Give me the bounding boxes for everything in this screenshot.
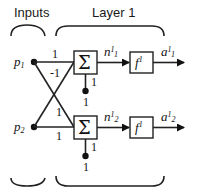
output-label-1: a11	[161, 44, 175, 59]
net-label-1: n11	[104, 44, 118, 59]
weight-label-w21: 1	[56, 105, 62, 119]
bias-dot-2	[82, 153, 88, 159]
layer-label: Layer 1	[92, 5, 135, 20]
weight-label-w22: 1	[56, 129, 62, 143]
sigma-icon: Σ	[78, 117, 91, 138]
inputs-top-brace	[11, 25, 45, 36]
inputs-label: Inputs	[14, 5, 50, 20]
bias-dot-1	[82, 88, 88, 94]
bias-weight-label-2: 1	[91, 140, 97, 154]
input-p2: p2	[13, 119, 37, 135]
bias-weight-label-1: 1	[91, 75, 97, 89]
svg-text:p1: p1	[13, 54, 25, 70]
layer-top-brace	[56, 26, 164, 36]
bias-input-label-2: 1	[83, 160, 89, 174]
layer-bottom-brace	[56, 176, 164, 186]
neuron-2: Σ 1 1 n12 f1 a12	[74, 109, 184, 174]
output-label-2: a12	[161, 109, 176, 124]
bias-input-label-1: 1	[83, 95, 89, 109]
weight-label-w12: -1	[50, 66, 60, 80]
sigma-icon: Σ	[78, 52, 91, 73]
inputs-bottom-brace	[11, 178, 45, 186]
weight-label-w11: 1	[52, 47, 58, 61]
neuron-1: Σ 1 1 n11 f1 a11	[74, 44, 184, 109]
neural-network-diagram: Inputs Layer 1 p1 p2 1 -1 1 1 Σ 1 1 n11 …	[0, 0, 198, 194]
input-p1: p1	[13, 54, 37, 70]
net-label-2: n12	[104, 109, 119, 124]
svg-text:p2: p2	[13, 119, 25, 135]
